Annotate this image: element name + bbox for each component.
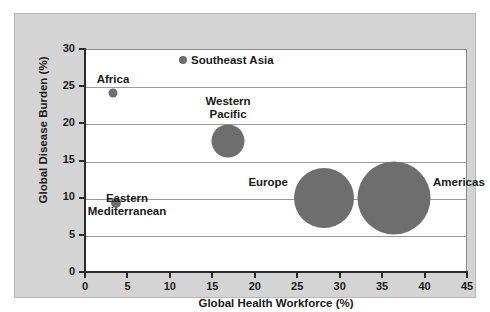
x-axis-title: Global Health Workforce (%) [85,297,467,309]
y-tick-label-0: 0 [53,266,75,277]
x-tick-label-35: 35 [370,280,394,292]
x-tick-label-40: 40 [413,280,437,292]
y-tick-label-30: 30 [53,43,75,54]
x-tick-40 [424,273,426,278]
bubble-label-europe: Europe [248,176,288,189]
y-tick-label-25: 25 [53,80,75,91]
bubble-americas[interactable] [358,161,431,234]
gridline-15 [85,162,466,163]
chart-screenshot: Africa Southeast Asia Western Pacific Ea… [0,0,490,312]
x-tick-45 [466,273,468,278]
bubble-western-pacific[interactable] [211,124,244,157]
x-tick-label-5: 5 [115,280,139,292]
x-tick-label-45: 45 [455,280,479,292]
y-tick-label-20: 20 [53,117,75,128]
x-tick-label-30: 30 [328,280,352,292]
x-tick-0 [84,273,86,278]
y-axis-line [84,48,86,273]
bubble-southeast-asia[interactable] [179,56,187,64]
bubble-africa[interactable] [109,89,118,98]
plot-area: Africa Southeast Asia Western Pacific Ea… [85,49,467,272]
x-tick-20 [254,273,256,278]
y-tick-25 [79,85,84,87]
bubble-europe[interactable] [294,168,354,228]
x-tick-10 [169,273,171,278]
y-tick-30 [79,48,84,50]
bubble-label-western-pacific: Western Pacific [205,95,250,120]
y-tick-label-5: 5 [53,229,75,240]
bubble-label-americas: Americas [433,176,485,189]
gridline-25 [85,87,466,88]
x-tick-label-25: 25 [285,280,309,292]
chart-panel: Africa Southeast Asia Western Pacific Ea… [14,13,476,298]
bubble-label-eastern-mediterranean: Eastern Mediterranean [62,192,192,217]
y-tick-10 [79,197,84,199]
x-tick-5 [126,273,128,278]
x-tick-35 [381,273,383,278]
y-tick-5 [79,234,84,236]
y-axis-title: Global Disease Burden (%) [37,40,49,220]
y-tick-20 [79,122,84,124]
x-tick-label-20: 20 [243,280,267,292]
x-tick-label-15: 15 [200,280,224,292]
x-tick-label-0: 0 [73,280,97,292]
y-tick-label-15: 15 [53,154,75,165]
x-tick-label-10: 10 [158,280,182,292]
gridline-20 [85,124,466,125]
y-tick-15 [79,160,84,162]
bubble-label-africa: Africa [97,73,130,86]
x-axis-line [84,271,468,273]
gridline-5 [85,236,466,237]
x-tick-15 [211,273,213,278]
x-tick-25 [296,273,298,278]
x-tick-30 [339,273,341,278]
bubble-label-southeast-asia: Southeast Asia [191,54,274,67]
y-tick-label-10: 10 [53,191,75,202]
